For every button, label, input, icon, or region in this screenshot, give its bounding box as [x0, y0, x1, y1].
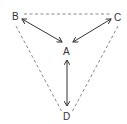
- arrow-a-b: [22, 19, 62, 42]
- node-c-label: C: [114, 12, 121, 23]
- node-b-label: B: [12, 11, 19, 22]
- arrow-a-c: [73, 19, 111, 42]
- node-d-label: D: [63, 111, 70, 122]
- triangle-diagram: B C A D: [0, 0, 127, 124]
- node-a-label: A: [63, 46, 70, 57]
- edge-b-d: [16, 26, 62, 112]
